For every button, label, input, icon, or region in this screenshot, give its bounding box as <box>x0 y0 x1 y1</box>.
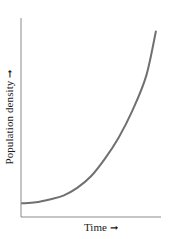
arrow-right-icon: ➞ <box>110 222 118 233</box>
growth-curve <box>22 32 156 204</box>
chart-canvas <box>0 0 171 239</box>
x-axis-label-text: Time <box>84 221 107 233</box>
y-axis-label-text: Population density <box>3 81 15 165</box>
x-axis-label: Time➞ <box>84 221 118 233</box>
arrow-right-icon: ➞ <box>4 69 15 77</box>
y-axis-label: Population density➞ <box>3 69 15 164</box>
